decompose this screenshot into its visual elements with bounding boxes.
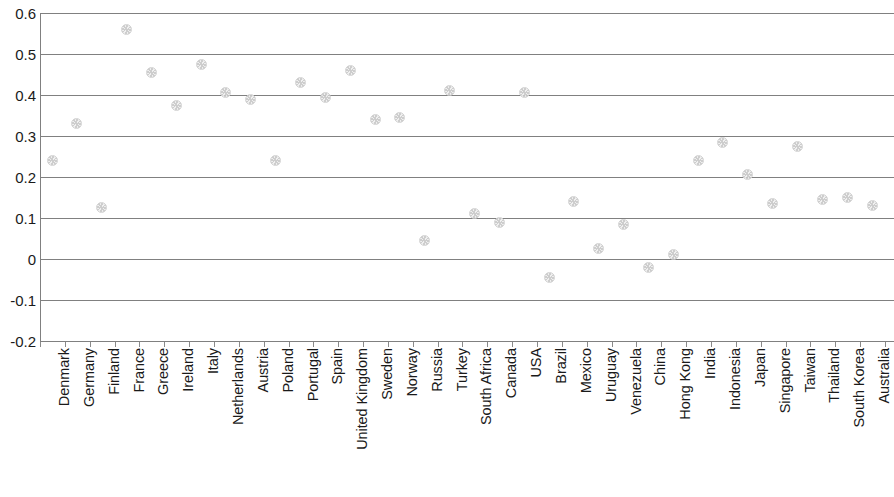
x-axis-tick: [90, 342, 91, 347]
x-axis-tick: [139, 342, 140, 347]
data-point: [47, 155, 58, 166]
x-axis-category-label: Singapore: [778, 348, 793, 413]
x-axis-category-label: USA: [529, 348, 544, 378]
x-axis-category-label: Netherlands: [231, 348, 246, 425]
x-axis-category-label: Russia: [430, 348, 445, 392]
x-axis-tick: [338, 342, 339, 347]
x-axis-tick: [512, 342, 513, 347]
x-axis-category-label: Turkey: [455, 348, 470, 391]
gridline: [40, 95, 894, 96]
x-axis-category-label: Finland: [107, 348, 122, 395]
x-axis-category-labels: DenmarkGermanyFinlandFranceGreeceIreland…: [0, 348, 894, 497]
y-axis-tick-label: -0.1: [0, 293, 36, 308]
x-axis-category-label: Taiwan: [803, 348, 818, 393]
x-axis-tick: [835, 342, 836, 347]
x-axis-tick: [686, 342, 687, 347]
gridline: [40, 177, 894, 178]
x-axis-tick: [388, 342, 389, 347]
x-axis-tick: [164, 342, 165, 347]
data-point: [693, 155, 704, 166]
data-point: [370, 114, 381, 125]
gridline: [40, 54, 894, 55]
x-axis-tick: [487, 342, 488, 347]
data-point: [544, 272, 555, 283]
gridline: [40, 300, 894, 301]
x-axis-category-label: Portugal: [306, 348, 321, 401]
x-axis-category-label: Spain: [330, 348, 345, 385]
y-axis-tick-label: 0: [0, 252, 36, 267]
scatter-chart: 0.60.50.40.30.20.10-0.1-0.2 DenmarkGerma…: [0, 0, 894, 497]
x-axis-tick: [636, 342, 637, 347]
data-point: [842, 192, 853, 203]
x-axis-tick: [885, 342, 886, 347]
x-axis-tick: [115, 342, 116, 347]
x-axis-tick: [239, 342, 240, 347]
y-axis-tick-label: 0.5: [0, 47, 36, 62]
x-axis-tick: [537, 342, 538, 347]
x-axis-category-label: Austria: [256, 348, 271, 392]
x-axis-category-label: South Africa: [479, 348, 494, 425]
x-axis-tick: [289, 342, 290, 347]
plot-area: [40, 13, 894, 341]
x-axis-category-label: Norway: [405, 348, 420, 397]
data-point: [196, 59, 207, 70]
gridline: [40, 259, 894, 260]
x-axis-tick: [736, 342, 737, 347]
x-axis-category-label: South Korea: [852, 348, 867, 428]
data-point: [643, 262, 654, 273]
x-axis-category-label: Australia: [877, 348, 892, 404]
data-point: [245, 94, 256, 105]
x-axis-category-label: Brazil: [554, 348, 569, 384]
data-point: [295, 77, 306, 88]
x-axis-tick: [413, 342, 414, 347]
y-axis-tick-label: 0.6: [0, 6, 36, 21]
x-axis-category-label: Sweden: [380, 348, 395, 400]
x-axis-category-label: Japan: [753, 348, 768, 387]
x-axis-tick: [40, 342, 41, 347]
x-axis-category-label: China: [653, 348, 668, 385]
x-axis-category-label: Indonesia: [728, 348, 743, 410]
data-point: [867, 200, 878, 211]
data-point: [146, 67, 157, 78]
data-point: [320, 92, 331, 103]
data-point: [419, 235, 430, 246]
data-point: [717, 137, 728, 148]
data-point: [345, 65, 356, 76]
x-axis-category-label: India: [703, 348, 718, 379]
data-point: [593, 243, 604, 254]
x-axis-category-label: Denmark: [57, 348, 72, 406]
gridline: [40, 218, 894, 219]
data-point: [71, 118, 82, 129]
x-axis-tick: [462, 342, 463, 347]
data-point: [96, 202, 107, 213]
x-axis-tick: [612, 342, 613, 347]
x-axis-category-label: Uruguay: [604, 348, 619, 402]
x-axis-category-label: Germany: [82, 348, 97, 407]
data-point: [121, 24, 132, 35]
x-axis-category-label: Poland: [281, 348, 296, 393]
x-axis-tick: [438, 342, 439, 347]
x-axis-tick: [189, 342, 190, 347]
x-axis-category-label: Hong Kong: [678, 348, 693, 420]
y-axis-tick-label: 0.1: [0, 211, 36, 226]
x-axis-tick: [264, 342, 265, 347]
x-axis-tick: [661, 342, 662, 347]
y-axis-tick-label: 0.2: [0, 170, 36, 185]
y-axis-tick-label: 0.4: [0, 88, 36, 103]
x-axis-category-label: Greece: [156, 348, 171, 395]
x-axis-category-label: Venezuela: [629, 348, 644, 415]
gridline: [40, 13, 894, 14]
x-axis-tick: [761, 342, 762, 347]
data-point: [220, 87, 231, 98]
data-point: [519, 87, 530, 98]
x-axis-tick: [786, 342, 787, 347]
x-axis-tick: [214, 342, 215, 347]
x-axis-tick: [860, 342, 861, 347]
data-point: [270, 155, 281, 166]
y-axis-tick-label: 0.3: [0, 129, 36, 144]
x-axis-tick: [587, 342, 588, 347]
data-point: [394, 112, 405, 123]
x-axis-category-label: Canada: [504, 348, 519, 398]
x-axis-category-label: Ireland: [181, 348, 196, 392]
x-axis-category-label: France: [132, 348, 147, 393]
